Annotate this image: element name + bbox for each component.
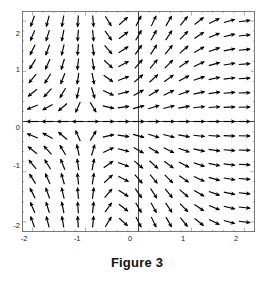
y-tick-label: -1 [2, 162, 20, 170]
vector-arrow [239, 78, 250, 79]
figure-container: 2 1 0 -1 -2 -2 -1 0 1 2 Figure 3 [0, 0, 274, 282]
vector-arrow [209, 107, 220, 108]
vector-field-svg [22, 11, 255, 232]
x-tick-label: 2 [227, 235, 245, 243]
vector-arrow [209, 135, 220, 136]
y-tick-label: -2 [2, 222, 20, 230]
x-tick-label: -1 [68, 235, 86, 243]
y-tick-label: 1 [2, 66, 20, 74]
vector-field-plot [22, 11, 255, 232]
x-tick-label: 0 [121, 235, 139, 243]
vector-arrow [78, 216, 79, 227]
vector-arrow [239, 164, 250, 165]
x-tick-label: -2 [15, 235, 33, 243]
vector-arrow [78, 15, 79, 26]
figure-caption: Figure 3 [0, 255, 274, 270]
x-tick-label: 1 [174, 235, 192, 243]
y-tick-label: 2 [2, 30, 20, 38]
y-tick-label: 0 [2, 124, 20, 132]
